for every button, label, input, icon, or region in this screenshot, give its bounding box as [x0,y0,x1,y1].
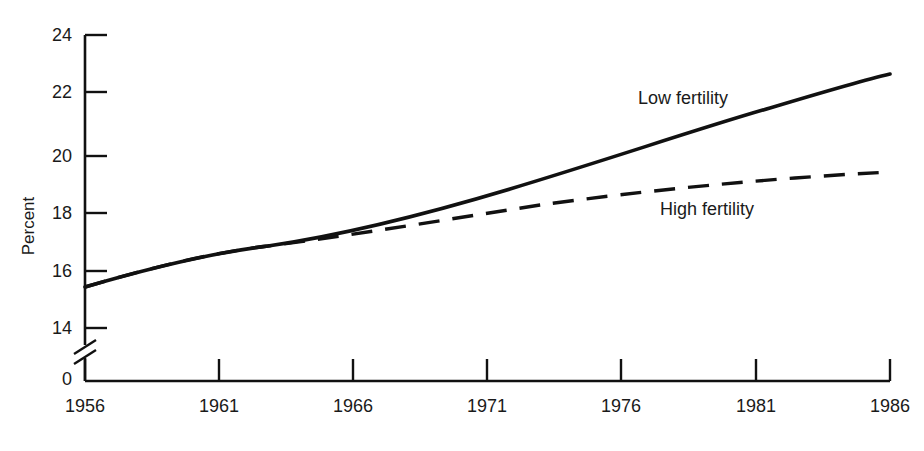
y-tick-label-0: 0 [28,369,72,390]
x-tick-label-1981: 1981 [736,396,776,417]
y-tick-label-22: 22 [28,82,72,103]
series-label-low-fertility: Low fertility [638,88,728,109]
y-tick-label-24: 24 [28,25,72,46]
series-line-high-fertility [85,172,890,287]
fertility-projection-chart: Percent 24 22 20 18 16 14 0 1956 1961 19… [0,0,924,451]
x-tick-label-1961: 1961 [199,396,239,417]
y-tick-label-18: 18 [28,203,72,224]
y-tick-label-14: 14 [28,318,72,339]
x-tick-label-1976: 1976 [601,396,641,417]
y-tick-label-16: 16 [28,261,72,282]
y-tick-label-20: 20 [28,146,72,167]
x-axis-ticks [85,359,890,381]
chart-plot-area [0,0,924,451]
x-tick-label-1956: 1956 [65,396,105,417]
x-tick-label-1966: 1966 [333,396,373,417]
x-tick-label-1971: 1971 [467,396,507,417]
x-tick-label-1986: 1986 [870,396,910,417]
y-axis-title: Percent [19,186,39,266]
series-label-high-fertility: High fertility [660,199,754,220]
